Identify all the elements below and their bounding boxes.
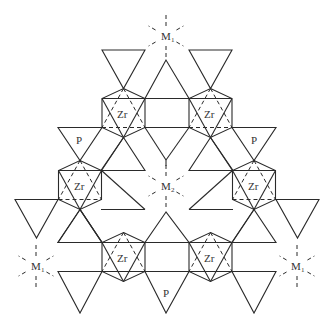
m2-site-center-spoke (149, 176, 156, 180)
m-letter: M (161, 180, 171, 192)
m2-site-center-spoke (149, 192, 156, 196)
p-label-right: P (251, 134, 257, 146)
zirconium-phosphate-structure-diagram: Zr Zr Zr Zr Zr Zr P P P M 1 M 2 M 1 M 1 (0, 0, 333, 323)
po4-tetrahedron-lower-left-inner (58, 210, 102, 243)
m-subscript: 1 (41, 266, 45, 274)
zr-label-bottom-right: Zr (204, 252, 215, 264)
m1-label-left: M 1 (31, 260, 45, 274)
m1-label-right: M 1 (291, 260, 305, 274)
po4-edge-center-upper (166, 128, 189, 161)
zr-label-bottom-left: Zr (117, 252, 128, 264)
po4-tetrahedron-top-center (145, 60, 189, 99)
po4-tetrahedron-inner-left (101, 138, 145, 171)
m1-site-top-spoke (149, 42, 156, 46)
m1-site-top-spoke (149, 26, 156, 30)
bond-mr-br (232, 210, 254, 243)
m1-site-right-spoke (307, 272, 314, 276)
m1-site-right-spoke (280, 256, 287, 260)
m1-site-right-spoke (307, 256, 314, 260)
m2-label-center: M 2 (161, 180, 175, 194)
m-subscript: 1 (301, 266, 305, 274)
p-label-bottom: P (163, 287, 169, 299)
m1-site-left-spoke (46, 272, 53, 276)
po4-tetrahedron-lower-left (58, 210, 102, 243)
m1-label-top: M 1 (161, 30, 175, 44)
m-subscript: 2 (171, 186, 175, 194)
bond-tl-ml (102, 138, 124, 171)
m2-site-center-spoke (176, 192, 183, 196)
m1-site-top-spoke (176, 26, 183, 30)
m2-site-center-spoke (176, 176, 183, 180)
m-subscript: 1 (171, 36, 175, 44)
zr-label-mid-left: Zr (74, 180, 85, 192)
po4-tetrahedron-outer-left (15, 200, 58, 239)
po4-tetrahedron-outer-right (276, 200, 319, 239)
m1-site-left-spoke (19, 256, 26, 260)
po4-tetrahedron-lower-right-inner (232, 210, 276, 243)
po4-tetrahedron-bottom-left (58, 272, 102, 314)
bond-mr-center (189, 171, 233, 210)
zr-label-top-left: Zr (117, 108, 128, 120)
m1-site-left-spoke (19, 272, 26, 276)
m-letter: M (291, 260, 301, 272)
zr-label-top-right: Zr (204, 108, 215, 120)
bond-ml-center (102, 171, 146, 210)
zr-label-mid-right: Zr (248, 180, 259, 192)
p-label-left: P (76, 134, 82, 146)
po4-tetrahedron-top-right (189, 50, 232, 89)
m-letter: M (161, 30, 171, 42)
m1-site-left-spoke (46, 256, 53, 260)
bond-tr-mr (211, 138, 233, 171)
po4-edge-center-upper (145, 128, 166, 161)
m1-site-right-spoke (280, 272, 287, 276)
m-letter: M (31, 260, 41, 272)
po4-tetrahedron-inner-right (189, 138, 233, 171)
po4-tetrahedron-top-left (102, 50, 145, 89)
po4-tetrahedron-bottom-right (232, 272, 276, 314)
m1-site-top-spoke (176, 42, 183, 46)
po4-tetrahedron-center-lower (145, 212, 189, 243)
